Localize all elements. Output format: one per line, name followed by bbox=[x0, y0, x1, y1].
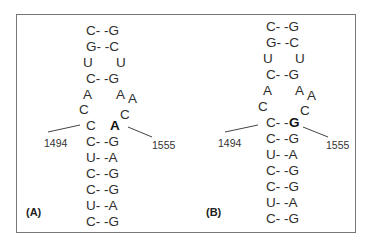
loop-base: C bbox=[258, 100, 268, 114]
stem-pair: C- -G bbox=[86, 24, 119, 38]
position-pointer-lines bbox=[0, 0, 372, 240]
stem-pair: C- -G bbox=[86, 215, 119, 229]
stem-pair: C- -G bbox=[86, 167, 119, 181]
position-label-left: 1494 bbox=[218, 137, 241, 149]
stem-pair: C- -G bbox=[266, 20, 299, 34]
loop-base: A bbox=[263, 84, 272, 98]
bulge-base-right: U bbox=[116, 56, 126, 70]
position-label-left: 1494 bbox=[44, 137, 67, 149]
junction-base-right-highlight: A bbox=[110, 119, 120, 133]
stem-pair: C- -G bbox=[86, 72, 119, 86]
loop-base: A bbox=[128, 92, 137, 106]
stem-pair: C- -G bbox=[266, 68, 299, 82]
loop-base: C bbox=[300, 104, 310, 118]
stem-pair: U- -A bbox=[266, 148, 298, 162]
loop-base: A bbox=[307, 89, 316, 103]
stem-pair: U- -A bbox=[266, 196, 298, 210]
junction-base-left: C- - bbox=[266, 116, 289, 130]
loop-base: A bbox=[295, 84, 304, 98]
bulge-base-left: U bbox=[83, 56, 93, 70]
panel-label: (A) bbox=[26, 206, 41, 218]
stem-pair: U- -A bbox=[86, 199, 118, 213]
loop-base: A bbox=[83, 88, 92, 102]
junction-base-right-highlight: G bbox=[289, 116, 300, 130]
stem-pair: C- -G bbox=[266, 180, 299, 194]
loop-base: A bbox=[116, 88, 125, 102]
junction-base-left: C bbox=[86, 119, 96, 133]
stem-pair: C- -G bbox=[266, 164, 299, 178]
stem-pair: C- -G bbox=[86, 135, 119, 149]
bulge-base-right: U bbox=[295, 52, 305, 66]
loop-base: C bbox=[79, 103, 89, 117]
bulge-base-left: U bbox=[263, 52, 273, 66]
stem-pair: U- -A bbox=[86, 151, 118, 165]
loop-base: C bbox=[120, 108, 130, 122]
stem-pair: C- -G bbox=[86, 183, 119, 197]
stem-pair: G- -C bbox=[86, 40, 119, 54]
panel-label: (B) bbox=[206, 206, 221, 218]
position-label-right: 1555 bbox=[326, 139, 349, 151]
stem-pair: C- -G bbox=[266, 132, 299, 146]
position-label-right: 1555 bbox=[152, 139, 175, 151]
stem-pair: G- -C bbox=[266, 36, 299, 50]
stem-pair: C- -G bbox=[266, 212, 299, 226]
